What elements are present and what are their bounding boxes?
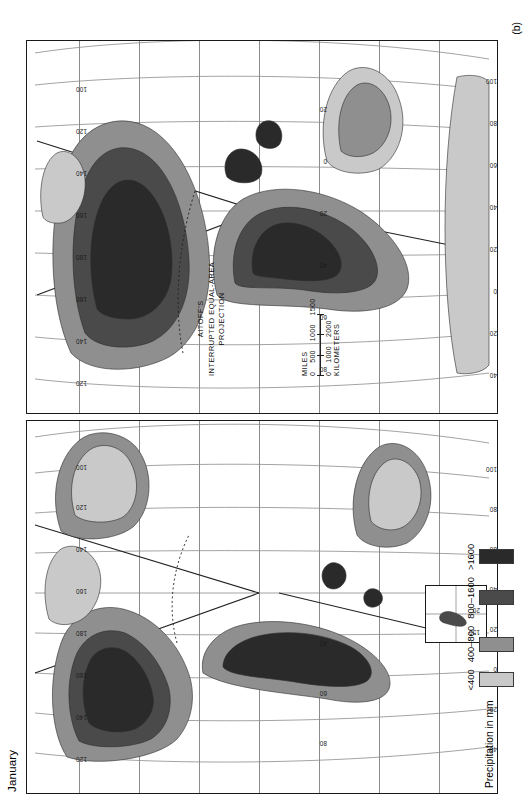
legend-swatch: [479, 549, 514, 564]
axis-tick: 140: [76, 338, 87, 345]
legend-item[interactable]: 800–1600: [465, 577, 514, 619]
legend-item-label: >1600: [465, 544, 476, 570]
scale-tick: 0: [325, 372, 332, 376]
axis-tick: 100: [76, 86, 87, 93]
legend-item-label: <400: [465, 669, 476, 690]
legend-item-label: 800–1600: [465, 577, 476, 619]
projection-line-3: PROJECTION: [217, 262, 228, 376]
axis-tick: 40: [489, 372, 497, 379]
figure-page: January: [0, 0, 528, 808]
axis-tick: 120: [76, 128, 87, 135]
scale-tick: 500: [309, 350, 316, 363]
axis-tick: 20: [319, 210, 327, 217]
map-panel-left[interactable]: 40 20 0 20 40 60 80 100 120 140 160 180 …: [26, 420, 498, 794]
axis-tick: 80: [489, 120, 497, 127]
legend-swatch: [479, 672, 514, 687]
scale-miles-label: MILES: [300, 351, 309, 376]
legend-item-label: 400–800: [465, 626, 476, 663]
axis-tick: 180: [76, 254, 87, 261]
axis-tick: 60: [319, 690, 327, 697]
scale-miles-ticks: 0 500 1000 1500: [309, 299, 316, 376]
panel-letter: (b): [510, 22, 522, 35]
scale-km-ticks: 0 1000 2000: [325, 299, 332, 376]
scale-bar-tick: [317, 314, 324, 315]
legend-item[interactable]: <400: [465, 669, 514, 690]
axis-tick: 120: [76, 380, 87, 387]
scale-tick: 1000: [309, 324, 316, 341]
scale-km-row: KILOMETERS: [332, 299, 341, 376]
legend-item[interactable]: >1600: [465, 544, 514, 570]
scale-bar-line: [320, 314, 321, 376]
scale-tick: 1500: [309, 299, 316, 316]
projection-line-1: AITOFF'S: [196, 262, 207, 376]
map-right-inner: 40 20 0 20 40 60 80 100 120 140 160 180 …: [27, 41, 497, 413]
axis-tick: 40: [319, 262, 327, 269]
axis-tick: 160: [76, 212, 87, 219]
axis-tick: 100: [486, 466, 497, 473]
axis-tick: 120: [76, 504, 87, 511]
scale-bar-tick: [317, 355, 324, 356]
legend-item[interactable]: 400–800: [465, 626, 514, 663]
scale-tick: 1000: [325, 346, 332, 363]
axis-tick: 20: [489, 246, 497, 253]
axis-tick: 0: [493, 288, 497, 295]
scale-bar-block: MILES 0 500 1000 1500 0 1000 2000 K: [300, 299, 341, 376]
legend-swatch: [479, 637, 514, 652]
projection-note: AITOFF'S INTERRUPTED EQUAL-AREA PROJECTI…: [196, 262, 228, 376]
projection-line-2: INTERRUPTED EQUAL-AREA: [207, 262, 218, 376]
axis-tick: 140: [76, 546, 87, 553]
scale-bar-graphic: [317, 314, 324, 376]
axis-tick: 40: [319, 640, 327, 647]
map-panel-right[interactable]: 40 20 0 20 40 60 80 100 120 140 160 180 …: [26, 40, 498, 414]
legend-title: Precipitation in mm: [484, 700, 495, 788]
axis-tick: 100: [486, 78, 497, 85]
scale-kilometers-label: KILOMETERS: [332, 324, 341, 376]
axis-tick: 100: [76, 464, 87, 471]
scale-tick: 0: [309, 372, 316, 376]
axis-tick: 120: [76, 756, 87, 763]
scale-tick: 2000: [325, 320, 332, 337]
legend-swatch: [479, 590, 514, 605]
scale-bar-tick: [317, 375, 324, 376]
axis-tick: 40: [489, 204, 497, 211]
map-left-inner: 40 20 0 20 40 60 80 100 120 140 160 180 …: [27, 421, 497, 793]
axis-tick: 80: [489, 506, 497, 513]
axis-tick: 140: [76, 170, 87, 177]
axis-tick: 0: [323, 158, 327, 165]
axis-tick: 60: [489, 162, 497, 169]
axis-tick: 80: [319, 740, 327, 747]
axis-tick: 20: [319, 106, 327, 113]
axis-tick: 160: [76, 296, 87, 303]
page-title: January: [6, 750, 18, 792]
axis-tick: 20: [489, 330, 497, 337]
legend: Precipitation in mm <400 400–800 800–160…: [465, 544, 514, 788]
axis-tick: 180: [76, 630, 87, 637]
rotated-figure-canvas: January: [0, 0, 528, 808]
scale-miles-row: MILES: [300, 299, 309, 376]
map-right-geometry: [27, 41, 497, 413]
scale-bar-tick: [317, 334, 324, 335]
axis-tick: 160: [76, 672, 87, 679]
axis-tick: 160: [76, 588, 87, 595]
axis-tick: 140: [76, 714, 87, 721]
